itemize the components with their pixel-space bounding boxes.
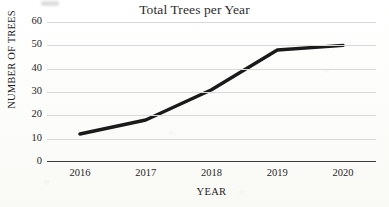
x-tick-label-2018: 2018 xyxy=(185,166,239,180)
y-tick-label-0: 0 xyxy=(16,156,42,167)
x-tick-label-2016: 2016 xyxy=(53,166,107,180)
x-axis-line xyxy=(47,161,376,162)
x-tick-label-2020: 2020 xyxy=(316,166,370,180)
y-tick-label-60: 60 xyxy=(16,16,42,27)
gridline-60 xyxy=(47,22,376,23)
plot-area xyxy=(47,22,376,162)
x-tick-label-2017: 2017 xyxy=(119,166,173,180)
y-tick-label-50: 50 xyxy=(16,39,42,50)
x-axis-title: YEAR xyxy=(47,186,376,197)
gridline-20 xyxy=(47,115,376,116)
y-tick-label-20: 20 xyxy=(16,109,42,120)
y-tick-label-40: 40 xyxy=(16,63,42,74)
x-tick-label-2019: 2019 xyxy=(250,166,304,180)
y-tick-label-30: 30 xyxy=(16,86,42,97)
gridline-40 xyxy=(47,69,376,70)
y-tick-label-10: 10 xyxy=(16,133,42,144)
gridline-10 xyxy=(47,139,376,140)
chart-screenshot: Total Trees per Year NUMBER OF TREES 010… xyxy=(0,0,389,207)
x-axis-tick-labels: 20162017201820192020 xyxy=(47,166,376,182)
gridline-30 xyxy=(47,92,376,93)
gridline-50 xyxy=(47,45,376,46)
y-axis-tick-labels: 0102030405060 xyxy=(14,22,42,162)
chart-title: Total Trees per Year xyxy=(0,2,389,18)
